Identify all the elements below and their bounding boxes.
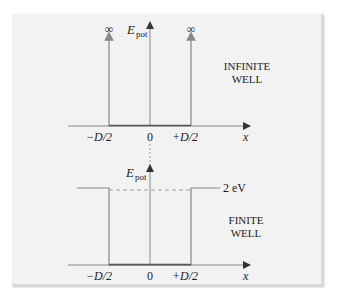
bottom-tick-minus-half-d: −D/2 xyxy=(86,269,112,283)
barrier-height-label: 2 eV xyxy=(223,181,246,195)
infinity-left-label: ∞ xyxy=(105,22,114,36)
finite-well-title-line1: FINITE xyxy=(229,214,264,226)
infinite-well-panel: ∞ ∞ E pot INFINITE WELL −D/2 0 +D/2 x xyxy=(68,22,270,144)
top-y-axis-label: E xyxy=(126,22,135,37)
infinite-well-title-line1: INFINITE xyxy=(224,60,271,72)
top-tick-zero: 0 xyxy=(147,130,153,144)
infinite-well-title-line2: WELL xyxy=(232,73,263,85)
bottom-y-axis-label: E xyxy=(125,165,134,180)
bottom-x-axis-label: x xyxy=(242,269,249,283)
top-tick-plus-half-d: +D/2 xyxy=(172,130,198,144)
infinity-right-label: ∞ xyxy=(187,22,196,36)
top-x-axis-label: x xyxy=(242,130,249,144)
finite-well-title-line2: WELL xyxy=(231,227,262,239)
top-tick-minus-half-d: −D/2 xyxy=(86,130,112,144)
potential-well-diagram: ∞ ∞ E pot INFINITE WELL −D/2 0 +D/2 x 2 … xyxy=(0,0,337,296)
top-y-axis-subscript: pot xyxy=(136,29,148,39)
finite-well-panel: 2 eV E pot FINITE WELL −D/2 0 +D/2 x xyxy=(68,165,264,283)
bottom-y-axis-subscript: pot xyxy=(135,172,147,182)
finite-well-potential xyxy=(77,188,220,265)
bottom-tick-zero: 0 xyxy=(147,269,153,283)
bottom-tick-plus-half-d: +D/2 xyxy=(172,269,198,283)
